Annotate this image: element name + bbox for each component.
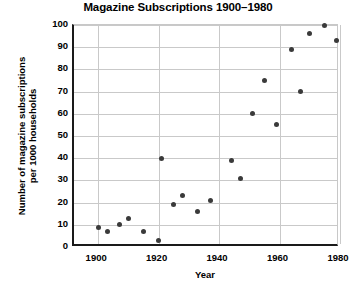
data-point <box>171 202 176 207</box>
data-point <box>117 222 122 227</box>
y-tick-label: 20 <box>42 196 68 207</box>
y-axis-label: Number of magazine subscriptions per 100… <box>16 36 38 236</box>
gridline-horizontal <box>74 47 337 48</box>
y-tick-label: 90 <box>42 40 68 51</box>
data-point <box>180 193 185 198</box>
y-axis-tick-labels: 1009080706050403020100 <box>40 0 68 291</box>
data-point <box>141 229 146 234</box>
x-tick-label: 1920 <box>132 252 182 263</box>
data-point <box>289 47 294 52</box>
data-point <box>322 23 327 28</box>
data-point <box>262 78 267 83</box>
gridline-horizontal <box>74 114 337 115</box>
data-point <box>307 31 312 36</box>
y-tick-label: 10 <box>42 218 68 229</box>
gridline-horizontal <box>74 158 337 159</box>
data-point <box>238 176 243 181</box>
data-point <box>274 122 279 127</box>
x-tick-label: 1940 <box>192 252 242 263</box>
scatter-chart: Magazine Subscriptions 1900–1980 1009080… <box>0 0 356 291</box>
y-tick-label: 80 <box>42 62 68 73</box>
y-axis-label-line2: per 1000 households <box>27 89 38 184</box>
gridline-vertical <box>219 25 220 244</box>
data-point <box>195 209 200 214</box>
y-tick-label: 100 <box>42 18 68 29</box>
gridline-horizontal <box>74 180 337 181</box>
gridline-horizontal <box>74 25 337 26</box>
x-tick-label: 1980 <box>313 252 356 263</box>
gridline-vertical <box>98 25 99 244</box>
y-tick-label: 70 <box>42 85 68 96</box>
gridline-vertical <box>340 25 341 244</box>
y-tick-label: 50 <box>42 129 68 140</box>
y-axis-label-line1: Number of magazine subscriptions <box>16 57 27 215</box>
y-tick-label: 40 <box>42 151 68 162</box>
gridline-horizontal <box>74 136 337 137</box>
y-tick-label: 30 <box>42 173 68 184</box>
plot-area <box>72 24 338 246</box>
gridline-vertical <box>159 25 160 244</box>
data-point <box>334 38 339 43</box>
data-point <box>250 111 255 116</box>
y-tick-label: 60 <box>42 107 68 118</box>
x-tick-label: 1960 <box>253 252 303 263</box>
data-point <box>96 225 101 230</box>
data-point <box>105 229 110 234</box>
data-point <box>126 216 131 221</box>
data-point <box>156 238 161 243</box>
gridline-horizontal <box>74 225 337 226</box>
gridline-vertical <box>280 25 281 244</box>
data-point <box>208 198 213 203</box>
gridline-horizontal <box>74 69 337 70</box>
data-point <box>159 156 164 161</box>
data-point <box>298 89 303 94</box>
x-tick-label: 1900 <box>71 252 121 263</box>
y-tick-label: 0 <box>42 240 68 251</box>
x-axis-label: Year <box>72 269 338 280</box>
data-point <box>229 158 234 163</box>
gridline-horizontal <box>74 203 337 204</box>
